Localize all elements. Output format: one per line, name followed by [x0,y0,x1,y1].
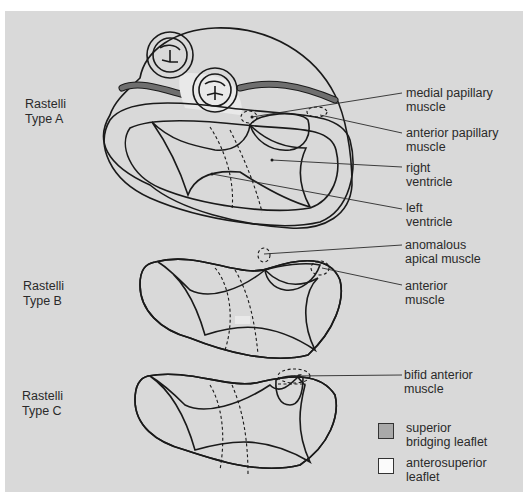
label-anterior-papillary-muscle: anterior papillary muscle [406,126,498,154]
type-c-heart [135,369,402,475]
label-medial-papillary-muscle: medial papillary muscle [406,86,493,114]
label-right-ventricle: right ventricle [406,161,453,189]
legend-label: anterosuperior leaflet [406,456,487,484]
legend-item-anterosuperior-leaflet: anterosuperior leaflet [378,456,487,484]
type-a-heart [103,28,402,228]
legend-swatch-white [378,458,394,474]
label-anomalous-apical-muscle: anomalous apical muscle [405,238,481,266]
label-bifid-anterior-muscle: bifid anterior muscle [404,368,473,396]
label-left-ventricle: left ventricle [406,201,453,229]
legend-swatch-grey [378,423,394,439]
legend-item-superior-bridging-leaflet: superior bridging leaflet [378,421,487,449]
type-c-label: Rastelli Type C [22,389,63,418]
label-anterior-muscle: anterior muscle [405,279,447,307]
legend-label: superior bridging leaflet [406,421,487,449]
type-b-label: Rastelli Type B [23,279,64,308]
type-b-heart [140,245,402,358]
type-a-label: Rastelli Type A [25,97,66,126]
